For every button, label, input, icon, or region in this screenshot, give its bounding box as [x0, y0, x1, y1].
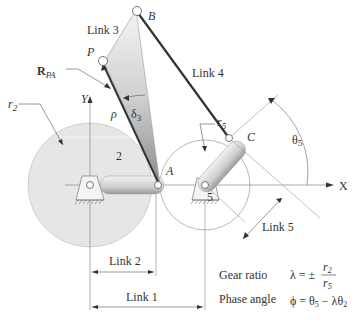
- phase-angle-label: Phase angle: [219, 292, 276, 306]
- point-p: [99, 57, 108, 66]
- label-point-c: C: [247, 130, 256, 144]
- label-link-3: Link 3: [87, 23, 119, 37]
- label-rho: ρ: [110, 107, 117, 121]
- gear-ratio-label: Gear ratio: [219, 268, 267, 282]
- label-point-p: P: [86, 45, 95, 59]
- label-r5: r5: [217, 115, 227, 131]
- label-link-5: Link 5: [262, 220, 294, 234]
- label-gear-5: 5: [207, 190, 213, 204]
- gear-ratio-denominator: r5: [323, 276, 332, 291]
- label-theta-5: θ5: [292, 133, 303, 148]
- pivot-o5: [202, 182, 209, 189]
- label-r2: r2: [8, 97, 18, 113]
- label-y-axis: Y: [81, 92, 89, 106]
- gear-ratio-lhs: λ = ±: [290, 268, 316, 282]
- label-link-1: Link 1: [126, 290, 158, 304]
- label-point-a: A: [165, 164, 174, 178]
- label-gear-2: 2: [116, 149, 122, 163]
- label-point-b: B: [148, 9, 156, 23]
- gear-ratio-numerator: r2: [323, 260, 332, 275]
- label-link-2: Link 2: [109, 254, 141, 268]
- joint-c: [226, 135, 233, 142]
- label-r-pa: RPA: [37, 64, 56, 80]
- geared-five-bar-diagram: Link 3 B P Link 4 RPA Y ρ δ3 r2 r5 2 A C…: [0, 0, 360, 322]
- phase-angle-equation: ϕ = θ5 − λθ2: [290, 294, 347, 309]
- joint-a: [155, 182, 162, 189]
- label-link-4: Link 4: [192, 66, 224, 80]
- pivot-o2: [87, 182, 94, 189]
- joint-b: [133, 7, 142, 16]
- label-x-axis: X: [339, 179, 348, 193]
